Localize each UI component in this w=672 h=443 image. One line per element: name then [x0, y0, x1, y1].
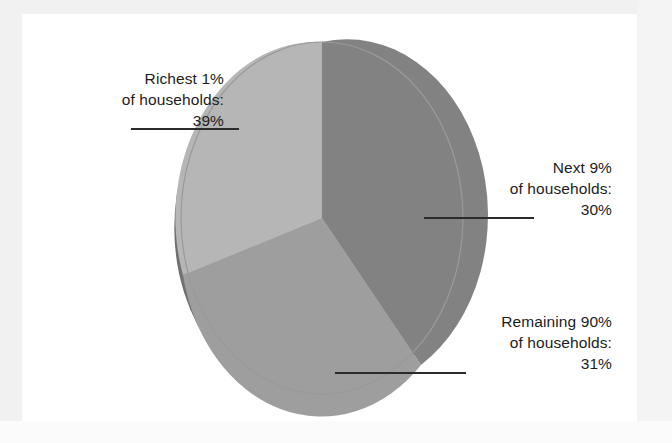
- pie-svg: [0, 0, 672, 443]
- label-next-9-percent: Next 9% of households: 30%: [436, 157, 612, 220]
- label-remaining-line-2: of households:: [396, 332, 612, 353]
- label-remaining-value: 31%: [396, 353, 612, 374]
- label-next-line-2: of households:: [436, 178, 612, 199]
- pie-chart-figure: Richest 1% of households: 39% Next 9% of…: [0, 0, 672, 443]
- label-richest-value: 39%: [28, 110, 224, 131]
- label-next-line-1: Next 9%: [436, 157, 612, 178]
- label-next-value: 30%: [436, 199, 612, 220]
- label-richest-line-2: of households:: [28, 89, 224, 110]
- label-richest-1-percent: Richest 1% of households: 39%: [28, 68, 224, 131]
- label-remaining-90-percent: Remaining 90% of households: 31%: [396, 311, 612, 374]
- label-richest-line-1: Richest 1%: [28, 68, 224, 89]
- label-remaining-line-1: Remaining 90%: [396, 311, 612, 332]
- pie-graphic: [0, 0, 672, 443]
